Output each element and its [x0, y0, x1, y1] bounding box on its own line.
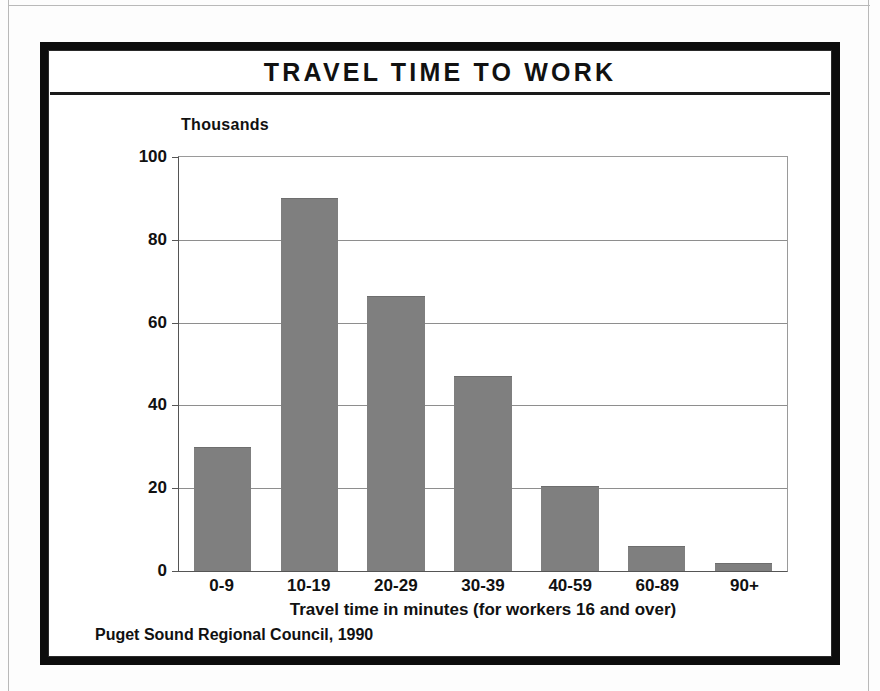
bar-0-9 — [194, 447, 251, 571]
y-axis-tick — [172, 240, 178, 241]
bar-slot — [440, 157, 527, 571]
source-note: Puget Sound Regional Council, 1990 — [95, 626, 373, 644]
y-axis-tick-label: 80 — [148, 230, 167, 250]
y-axis-tick — [172, 488, 178, 489]
figure-body: Thousands 020406080100 0-910-1920-2930-3… — [50, 98, 830, 655]
x-axis-label: 60-89 — [614, 576, 701, 596]
y-axis-tick-label: 20 — [148, 478, 167, 498]
y-axis-tick-label: 40 — [148, 395, 167, 415]
y-axis-tick-label: 100 — [139, 147, 167, 167]
x-axis-label: 10-19 — [265, 576, 352, 596]
bar-slot — [700, 157, 787, 571]
y-axis-tick — [172, 323, 178, 324]
y-axis-tick — [172, 157, 178, 158]
plot-area: 020406080100 — [178, 156, 788, 572]
bar-slot — [266, 157, 353, 571]
bar-slot — [179, 157, 266, 571]
bar-10-19 — [281, 198, 338, 571]
bar-30-39 — [454, 376, 511, 571]
bar-series — [179, 157, 787, 571]
x-axis-tick-labels: 0-910-1920-2930-3940-5960-8990+ — [178, 576, 788, 596]
title-band: TRAVEL TIME TO WORK — [50, 52, 830, 95]
bar-60-89 — [628, 546, 685, 571]
x-axis-label: 40-59 — [527, 576, 614, 596]
page-edge-rule-left — [8, 0, 9, 691]
figure-inner-border: TRAVEL TIME TO WORK Thousands 0204060801… — [48, 50, 832, 657]
x-axis-label: 20-29 — [352, 576, 439, 596]
x-axis-label: 90+ — [701, 576, 788, 596]
bar-slot — [613, 157, 700, 571]
x-axis-label: 0-9 — [178, 576, 265, 596]
figure-frame: TRAVEL TIME TO WORK Thousands 0204060801… — [40, 42, 840, 665]
y-axis-units-label: Thousands — [181, 116, 269, 134]
bar-20-29 — [367, 296, 424, 571]
chart-title: TRAVEL TIME TO WORK — [264, 58, 616, 87]
page-edge-rule-top — [8, 5, 870, 6]
bar-slot — [353, 157, 440, 571]
y-axis-tick-label: 0 — [158, 561, 167, 581]
page-canvas: TRAVEL TIME TO WORK Thousands 0204060801… — [0, 0, 880, 691]
bar-slot — [526, 157, 613, 571]
x-axis-caption: Travel time in minutes (for workers 16 a… — [178, 600, 788, 620]
bar-40-59 — [541, 486, 598, 571]
y-axis-tick — [172, 571, 178, 572]
x-axis-label: 30-39 — [439, 576, 526, 596]
y-axis-tick — [172, 405, 178, 406]
bar-90+ — [715, 563, 772, 571]
y-axis-tick-label: 60 — [148, 313, 167, 333]
page-edge-rule-right — [868, 0, 869, 691]
